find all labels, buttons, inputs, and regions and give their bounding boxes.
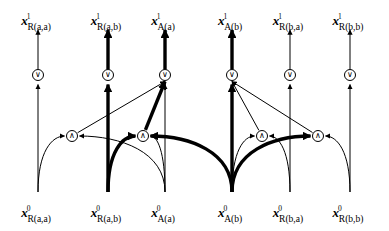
variable-superscript: 1 [278, 12, 282, 21]
column-edge-layer [38, 30, 350, 192]
diagram-svg [0, 0, 389, 231]
and-gate-node-and-4 [313, 131, 324, 142]
or-gate-node-or-r-aa [33, 70, 44, 81]
curve-curve-a-b-to-and4 [232, 136, 311, 192]
variable-superscript: 1 [27, 12, 31, 21]
variable-label-bottom-col-r-ab: x0R(a,b) [91, 206, 125, 223]
diagonal-diag-and2-to-or-a-a [145, 82, 165, 130]
or-gate-node-or-r-ba [285, 70, 296, 81]
and-gate-node-and-3 [257, 131, 268, 142]
variable-label-bottom-col-a-b: x0A(b) [218, 206, 246, 223]
variable-label-top-col-r-ab: x1R(a,b) [91, 14, 125, 31]
and-gate-node-and-2 [138, 131, 149, 142]
variable-superscript: 1 [96, 12, 100, 21]
variable-label-top-col-r-ba: x1R(b,a) [273, 14, 307, 31]
curve-curve-a-a-to-and2 [151, 136, 166, 192]
curved-edge-layer [38, 136, 350, 192]
curve-curve-r-ab-to-and2 [108, 136, 136, 192]
curve-curve-a-b-to-and2 [151, 136, 233, 192]
variable-superscript: 1 [338, 12, 342, 21]
variable-label-top-col-r-aa: x1R(a,a) [21, 14, 55, 31]
variable-label-top-col-a-a: x1A(a) [151, 14, 179, 31]
variable-subscript: R(b,a) [279, 214, 303, 224]
diagonal-edge-layer [78, 82, 313, 133]
variable-label-bottom-col-r-ba: x0R(b,a) [273, 206, 307, 223]
variable-label-bottom-col-r-bb: x0R(b,b) [333, 206, 368, 223]
variable-superscript: 0 [96, 204, 100, 213]
variable-subscript: R(b,b) [339, 22, 364, 32]
curve-curve-r-ba-to-and3 [270, 136, 291, 192]
variable-subscript: R(b,b) [339, 214, 364, 224]
diagonal-diag-and1-to-or-a-a [78, 82, 165, 133]
variable-superscript: 0 [157, 204, 161, 213]
variable-superscript: 1 [157, 12, 161, 21]
curve-curve-a-a-to-and1 [80, 136, 166, 192]
variable-superscript: 0 [338, 204, 342, 213]
diagonal-diag-and3-to-or-a-b [232, 82, 259, 131]
variable-label-top-col-a-b: x1A(b) [218, 14, 246, 31]
variable-label-top-col-r-bb: x1R(b,b) [333, 14, 368, 31]
variable-superscript: 0 [223, 204, 227, 213]
or-gate-node-or-r-bb [345, 70, 356, 81]
or-gate-node-or-r-ab [103, 70, 114, 81]
curve-curve-r-aa-to-and1 [38, 136, 65, 192]
variable-subscript: A(a) [157, 22, 174, 32]
variable-subscript: A(a) [157, 214, 174, 224]
and-gate-node-and-1 [67, 131, 78, 142]
variable-subscript: R(a,a) [27, 214, 50, 224]
curve-curve-r-bb-to-and4 [326, 136, 351, 192]
variable-subscript: R(a,b) [97, 22, 121, 32]
variable-label-bottom-col-a-a: x0A(a) [151, 206, 179, 223]
variable-superscript: 1 [223, 12, 227, 21]
or-gate-node-or-a-a [160, 70, 171, 81]
diagram-canvas: x1R(a,a)x1R(a,b)x1A(a)x1A(b)x1R(b,a)x1R(… [0, 0, 389, 231]
variable-subscript: A(b) [224, 22, 242, 32]
curve-curve-a-b-to-and3 [232, 136, 255, 192]
variable-subscript: R(a,a) [27, 22, 50, 32]
variable-subscript: R(a,b) [97, 214, 121, 224]
variable-subscript: A(b) [224, 214, 242, 224]
variable-superscript: 0 [278, 204, 282, 213]
variable-superscript: 0 [27, 204, 31, 213]
variable-subscript: R(b,a) [279, 22, 303, 32]
variable-label-bottom-col-r-aa: x0R(a,a) [21, 206, 55, 223]
diagonal-diag-and4-to-or-a-b [232, 82, 313, 133]
or-gate-node-or-a-b [227, 70, 238, 81]
